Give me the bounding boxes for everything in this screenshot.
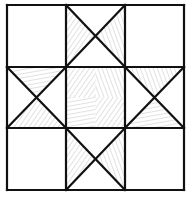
center-square-fabric — [66, 67, 96, 98]
fabric-fills — [7, 5, 184, 190]
star-point-triangle-bottom — [125, 98, 184, 129]
star-point-triangle-bottom — [7, 98, 66, 129]
quilt-block-diagram: Ohio Star quilt block — [0, 0, 192, 198]
star-point-triangle-top — [7, 67, 66, 98]
center-square-fabric — [66, 98, 96, 129]
center-square-fabric — [96, 98, 126, 129]
star-point-triangle-right — [96, 5, 126, 67]
star-point-triangle-right — [96, 128, 126, 190]
center-square-fabric — [96, 67, 126, 98]
quilt-svg — [0, 0, 192, 198]
star-point-triangle-left — [66, 5, 96, 67]
star-point-triangle-left — [66, 128, 96, 190]
star-point-triangle-top — [125, 67, 184, 98]
